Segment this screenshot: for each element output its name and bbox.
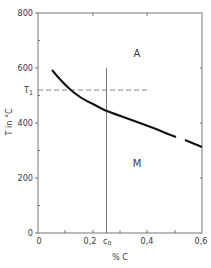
chart: 800 600 400 200 0 0 0,2 0,4 0,6 co % C T… <box>0 0 211 268</box>
x-tick-0: 0 <box>36 236 41 246</box>
x-tick-0.6: 0,6 <box>195 236 208 246</box>
t1-label: T1 <box>23 85 33 97</box>
ms-curve <box>52 70 202 147</box>
c0-label: co <box>103 236 111 247</box>
y-tick-600: 600 <box>18 63 33 73</box>
x-ticks <box>65 13 175 233</box>
y-tick-800: 800 <box>18 8 33 18</box>
x-tick-0.2: 0,2 <box>84 236 97 246</box>
region-m-label: M <box>133 158 142 169</box>
plot-frame <box>38 13 202 233</box>
y-tick-200: 200 <box>18 173 33 183</box>
y-axis-title: T in °C <box>4 108 14 137</box>
y-ticks <box>35 13 202 233</box>
y-tick-400: 400 <box>18 118 33 128</box>
region-a-label: A <box>134 48 141 59</box>
x-axis-title: % C <box>112 252 128 262</box>
y-tick-0: 0 <box>28 228 33 238</box>
x-tick-0.4: 0,4 <box>141 236 154 246</box>
